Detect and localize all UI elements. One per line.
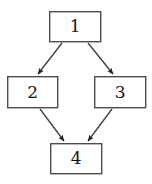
node-1-label: 1 <box>70 16 81 36</box>
node-3[interactable]: 3 <box>95 77 146 108</box>
edge-2-to-4 <box>40 109 64 141</box>
edge-1-to-3 <box>88 43 113 74</box>
edge-3-to-4 <box>88 109 112 141</box>
directed-graph: 1 2 3 4 <box>0 0 152 184</box>
node-4-label: 4 <box>71 148 82 168</box>
edge-1-to-2 <box>38 43 62 74</box>
node-layer: 1 2 3 4 <box>8 12 146 174</box>
diagram-canvas: 1 2 3 4 <box>0 0 152 184</box>
node-1[interactable]: 1 <box>50 12 101 42</box>
node-3-label: 3 <box>115 82 126 102</box>
node-4[interactable]: 4 <box>51 144 102 174</box>
node-2-label: 2 <box>27 82 38 102</box>
node-2[interactable]: 2 <box>8 77 58 108</box>
